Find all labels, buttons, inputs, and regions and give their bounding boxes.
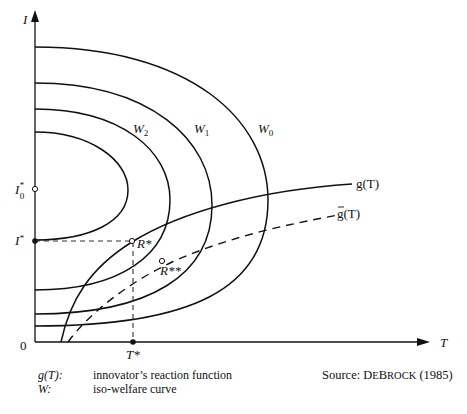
i0-star-marker [32, 186, 37, 191]
legend-row-g: g(T):innovator’s reaction function [38, 368, 232, 383]
legend-desc: iso-welfare curve [93, 382, 177, 396]
y-axis-label: I [22, 12, 28, 27]
w1-label: W1 [194, 121, 209, 138]
g-bar-label: g(T) [337, 206, 360, 221]
t-star-label: T* [126, 347, 140, 362]
iso-welfare-curve-w1 [35, 83, 212, 314]
iso-welfare-curve-w2 [35, 109, 170, 290]
iso-welfare-curve-w0 [35, 47, 268, 326]
legend-row-w: W:iso-welfare curve [38, 382, 177, 397]
w2-label: W2 [133, 121, 148, 138]
origin-label: 0 [20, 338, 27, 353]
i-star-label: I* [14, 233, 24, 248]
legend-key: W: [38, 382, 93, 397]
i0-star-label: I*0 [14, 180, 25, 201]
r-star-star-label: R** [159, 263, 181, 278]
iso-welfare-curve-inner [35, 132, 128, 240]
i-star-marker [32, 238, 38, 244]
x-axis-label: T [440, 335, 448, 350]
diagram-canvas: I T 0 I*0 I* T* W2 W1 W0 g(T) g(T) R* R*… [0, 0, 467, 414]
legend-desc: innovator’s reaction function [93, 368, 232, 382]
x-axis-arrow-icon [417, 338, 430, 346]
g-label: g(T) [356, 176, 379, 191]
source-year: (1985) [416, 368, 452, 382]
legend-key: g(T): [38, 368, 93, 383]
y-axis-arrow-icon [31, 10, 39, 22]
source-prefix: Source: [322, 368, 363, 382]
source-citation: Source: DEBROCK (1985) [322, 368, 453, 383]
t-star-marker [130, 339, 136, 345]
r-star-label: R* [136, 236, 152, 251]
w0-label: W0 [258, 121, 274, 138]
r-star-marker [129, 238, 134, 243]
source-author: DEBROCK [363, 368, 416, 382]
reaction-curve-g [61, 184, 352, 342]
